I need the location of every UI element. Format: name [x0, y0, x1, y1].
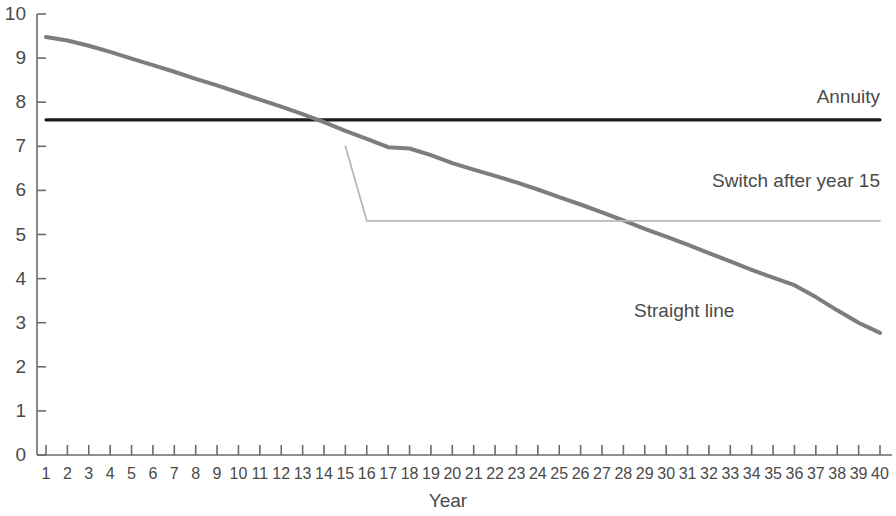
y-axis-tick-label: 3: [0, 313, 26, 332]
series-label-straight-line: Straight line: [634, 300, 734, 322]
y-axis-tick-label: 5: [0, 225, 26, 244]
y-axis-tick-label: 4: [0, 269, 26, 288]
chart-axes: [37, 14, 892, 455]
x-axis-tick-label: 40: [867, 466, 893, 482]
series-label-switch-after-year-15: Switch after year 15: [0, 170, 880, 192]
x-axis-title: Year: [388, 490, 508, 512]
chart-plot-area: [0, 0, 896, 516]
chart-tick-marks: [37, 14, 880, 455]
y-axis-tick-label: 9: [0, 48, 26, 67]
y-axis-tick-label: 0: [0, 445, 26, 464]
y-axis-tick-label: 7: [0, 136, 26, 155]
series-label-annuity: Annuity: [0, 86, 880, 108]
y-axis-tick-label: 1: [0, 401, 26, 420]
y-axis-tick-label: 2: [0, 357, 26, 376]
chart-container: 012345678910 123456789101112131415161718…: [0, 0, 896, 516]
y-axis-tick-label: 10: [0, 4, 26, 23]
